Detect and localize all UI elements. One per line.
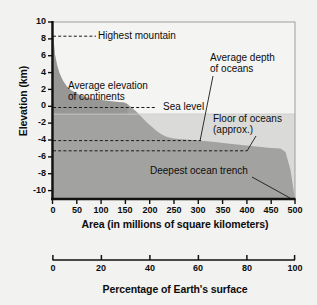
pct-tick-label-60: 60 (186, 263, 210, 273)
pct-tick-label-40: 40 (138, 263, 162, 273)
x-tick-label-300: 300 (184, 205, 212, 215)
x-tick-label-500: 500 (281, 205, 309, 215)
annotation-average-depth-oceans-line1: Average depth (210, 52, 275, 64)
pct-tick-label-80: 80 (235, 263, 259, 273)
x-tick-label-50: 50 (65, 205, 89, 215)
percentage-axis-title: Percentage of Earth's surface (50, 283, 300, 295)
y-axis-title: Elevation (km) (17, 46, 29, 156)
annotation-deepest-ocean-trench: Deepest ocean trench (150, 165, 248, 177)
y-tick-label-minus10: -10 (8, 185, 46, 195)
pct-tick-label-0: 0 (42, 263, 64, 273)
x-axis-title: Area (in millions of square kilometers) (50, 218, 300, 230)
x-tick-label-150: 150 (111, 205, 139, 215)
x-tick-label-0: 0 (42, 205, 64, 215)
annotation-floor-of-oceans-line1: Floor of oceans (213, 113, 282, 125)
annotation-average-elevation-continents-line1: Average elevation (68, 80, 148, 92)
annotation-average-depth-oceans-line2: of oceans (210, 63, 253, 75)
annotation-average-elevation-continents-line2: of continents (68, 91, 125, 103)
percentage-scale-bar (53, 255, 296, 260)
y-tick-label-8: 8 (16, 33, 46, 43)
annotation-sea-level: Sea level (163, 101, 204, 113)
hypsometric-curve-figure: 10 8 6 4 2 0 -2 -4 -6 -8 -10 0 50 100 15… (0, 0, 317, 305)
pct-tick-label-20: 20 (89, 263, 113, 273)
annotation-highest-mountain: Highest mountain (98, 30, 176, 42)
pct-tick-label-100: 100 (281, 263, 309, 273)
y-tick-label-minus8: -8 (12, 168, 46, 178)
annotation-floor-of-oceans-line2: (approx.) (213, 124, 253, 136)
y-tick-label-10: 10 (16, 16, 46, 26)
chart-canvas (0, 0, 317, 305)
